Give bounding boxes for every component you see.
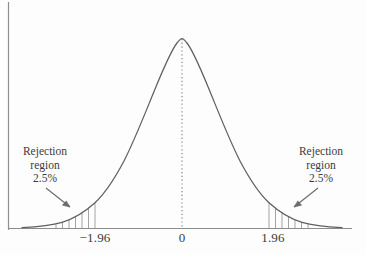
right-rejection-label-line1: Rejection [284, 145, 358, 159]
left-rejection-label-line1: Rejection [8, 145, 82, 159]
left-rejection-region-label: Rejection region 2.5% [8, 145, 82, 186]
left-annotation-arrow [46, 188, 70, 207]
normal-distribution-figure: Rejection region 2.5% Rejection region 2… [0, 0, 366, 255]
right-rejection-label-line2: region [284, 159, 358, 173]
left-rejection-hatching [56, 203, 95, 229]
x-tick-label-zero: 0 [170, 230, 194, 245]
left-rejection-label-percent: 2.5% [8, 172, 82, 186]
right-rejection-label-percent: 2.5% [284, 172, 358, 186]
right-rejection-hatching [269, 203, 308, 229]
distribution-plot [0, 0, 366, 255]
left-rejection-label-line2: region [8, 159, 82, 173]
right-rejection-region-label: Rejection region 2.5% [284, 145, 358, 186]
x-tick-label-positive-critical: 1.96 [252, 230, 294, 245]
right-annotation-arrow [294, 188, 318, 207]
x-tick-label-negative-critical: −1.96 [72, 230, 118, 245]
